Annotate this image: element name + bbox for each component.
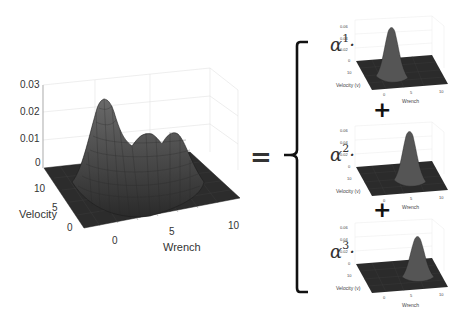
z-tick: 0.06	[340, 128, 348, 133]
z-tick: 0.02	[20, 106, 39, 117]
velocity-tick: 10	[347, 176, 351, 181]
z-tick: 0.04	[340, 237, 348, 242]
z-tick: 0	[348, 164, 350, 169]
wrench-tick: 10	[439, 195, 443, 200]
wrench-tick: 5	[169, 226, 175, 237]
wrench-tick: 0	[112, 235, 118, 246]
velocity-tick: 10	[347, 70, 351, 75]
velocity-axis-label: Velocity (v)	[336, 188, 360, 194]
component-2: α2· 0.06 0.04 0.02 0 10 Velocity (v) 0 5…	[320, 110, 465, 210]
wrench-tick: 5	[410, 196, 412, 201]
component-1: α1· 0.06 0.04 0.02 0 10 Velocity (v) 0 5…	[320, 0, 465, 100]
equals-sign: =	[250, 142, 272, 172]
z-tick: 0	[35, 157, 41, 168]
wrench-axis-label: Wrench	[163, 241, 201, 253]
z-tick: 0.04	[340, 140, 348, 145]
wrench-axis-label: Wrench	[402, 302, 419, 308]
z-tick: 0.06	[340, 24, 348, 29]
z-tick: 0.02	[340, 47, 348, 52]
z-tick: 0	[348, 261, 350, 266]
z-tick: 0.06	[340, 225, 348, 230]
velocity-axis-label: Velocity (v)	[336, 82, 360, 88]
velocity-axis-label: Velocity (v)	[336, 285, 360, 291]
z-tick: 0.02	[340, 249, 348, 254]
velocity-axis-label: Velocity	[19, 208, 57, 220]
wrench-tick: 5	[410, 90, 412, 95]
z-tick: 0.01	[20, 133, 39, 144]
wrench-axis-label: Wrench	[402, 204, 419, 210]
component-surface-graphic	[352, 215, 462, 305]
wrench-tick: 5	[410, 293, 412, 298]
wrench-tick: 10	[439, 89, 443, 94]
wrench-tick: 10	[228, 220, 239, 231]
wrench-tick: 10	[439, 292, 443, 297]
component-surface-graphic	[352, 118, 462, 208]
left-brace	[282, 40, 312, 296]
wrench-axis-label: Wrench	[402, 98, 419, 104]
component-surface-graphic	[352, 12, 462, 102]
main-surface-plot: 0.03 0.02 0.01 0 10 5 0 Velocity 0 5 10 …	[0, 60, 250, 260]
velocity-tick: 10	[347, 273, 351, 278]
z-tick: 0.03	[20, 79, 39, 90]
z-tick: 0	[348, 58, 350, 63]
velocity-tick: 10	[34, 183, 45, 194]
component-3: α3· 0.06 0.04 0.02 0 10 Velocity (v) 0 5…	[320, 213, 465, 315]
velocity-tick: 0	[67, 222, 73, 233]
wrench-tick: 0	[383, 295, 385, 300]
z-tick: 0.04	[340, 36, 348, 41]
z-tick: 0.02	[340, 152, 348, 157]
